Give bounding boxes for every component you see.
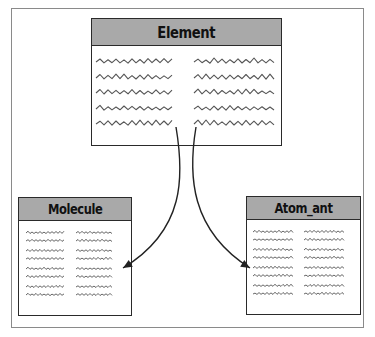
placeholder-text-line [194,120,274,125]
placeholder-text-line [26,239,64,241]
placeholder-text-line [76,239,112,241]
diagram-overlay [0,0,375,337]
arrow-element-to-molecule [123,127,180,268]
arrowhead-icon [240,260,250,268]
placeholder-text-line [26,231,64,233]
placeholder-text-line [253,292,293,294]
placeholder-text-line [304,266,344,268]
placeholder-text-line [76,249,112,251]
inheritance-arrows [123,127,250,268]
placeholder-text-line [304,256,344,258]
arrowhead-icon [123,260,133,268]
placeholder-text-line [76,268,112,270]
placeholder-text-line [304,284,344,286]
placeholder-text-line [194,58,274,63]
placeholder-text-line [96,120,172,125]
placeholder-text-line [194,106,274,111]
placeholder-text-line [304,230,344,232]
placeholder-text-line [253,284,293,286]
placeholder-text-line [26,249,64,251]
placeholder-text-line [26,275,64,277]
placeholder-text-line [253,239,293,241]
placeholder-text-line [26,267,64,269]
placeholder-text-line [253,230,293,232]
placeholder-text-line [253,256,293,258]
placeholder-text-line [304,248,344,250]
placeholder-text-line [96,74,172,79]
placeholder-text-line [194,74,274,79]
placeholder-text-line [26,293,64,295]
placeholder-text-line [26,285,64,287]
placeholder-text-line [194,89,274,94]
placeholder-text-line [96,105,172,110]
placeholder-text-squiggles [26,58,344,296]
placeholder-text-line [96,59,172,63]
placeholder-text-line [26,257,64,259]
placeholder-text-line [76,257,112,259]
placeholder-text-line [253,248,293,250]
placeholder-text-line [76,231,112,233]
placeholder-text-line [253,274,293,276]
arrow-element-to-atom_ant [193,127,250,268]
placeholder-text-line [96,90,172,95]
placeholder-text-line [304,292,344,294]
placeholder-text-line [304,238,344,240]
placeholder-text-line [304,274,344,276]
placeholder-text-line [253,266,293,268]
placeholder-text-line [76,286,112,288]
placeholder-text-line [76,275,112,277]
placeholder-text-line [76,293,112,295]
